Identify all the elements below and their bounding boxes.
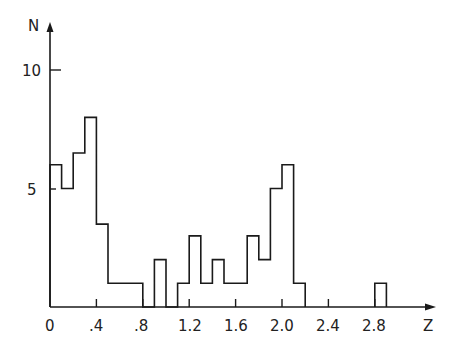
y-tick-label-5: 5	[27, 181, 37, 199]
x-ticks	[96, 299, 374, 307]
x-tick-label-0: 0	[45, 317, 55, 335]
x-tick-label-0.8: .8	[134, 317, 148, 335]
y-tick-label-10: 10	[22, 62, 41, 80]
y-axis-arrow-icon	[47, 22, 54, 32]
x-tick-label-2.4: 2.4	[316, 317, 340, 335]
x-tick-label-2.8: 2.8	[362, 317, 386, 335]
x-tick-label-2.0: 2.0	[270, 317, 294, 335]
x-tick-label-1.2: 1.2	[178, 317, 202, 335]
histogram-steps	[50, 117, 386, 307]
x-tick-label-0.4: .4	[89, 317, 103, 335]
x-axis-label: Z	[423, 317, 433, 335]
y-axis-label: N	[28, 17, 39, 35]
x-axis-arrow-icon	[425, 304, 436, 311]
histogram-chart: N 10 5 0 .4 .8 1.2 1.6 2.0 2.4 2.8 Z	[0, 0, 455, 351]
x-tick-label-1.6: 1.6	[224, 317, 248, 335]
